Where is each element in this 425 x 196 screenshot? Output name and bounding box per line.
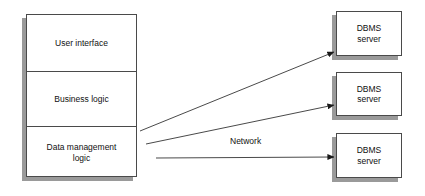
diagram-canvas: User interface Business logic Data manag… (0, 0, 425, 196)
network-label: Network (230, 135, 261, 147)
network-connectors (0, 0, 425, 196)
connector-to-server-3[interactable] (156, 157, 334, 158)
connector-to-server-1[interactable] (140, 52, 334, 131)
